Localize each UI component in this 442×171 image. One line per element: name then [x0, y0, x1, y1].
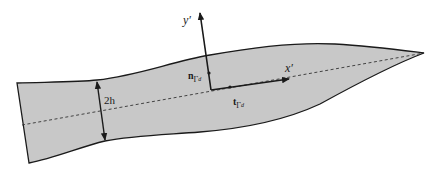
y-prime-label: y′ [183, 14, 191, 26]
tangent-vector-tip [228, 85, 231, 88]
body-shape [17, 43, 424, 163]
thickness-text: 2h [104, 94, 115, 106]
normal-vector-tip [207, 71, 210, 74]
diagram-canvas: y′ x′ 2h nΓd tΓd [0, 0, 442, 171]
x-prime-label: x′ [285, 62, 293, 74]
tangent-vector-label: tΓd [233, 95, 244, 107]
normal-vector-label: nΓd [188, 69, 201, 81]
normal-subsubscript: d [198, 76, 201, 82]
tangent-subsubscript: d [241, 102, 244, 108]
diagram-svg [0, 0, 442, 171]
normal-symbol: n [188, 70, 194, 81]
thickness-label: 2h [104, 95, 115, 106]
